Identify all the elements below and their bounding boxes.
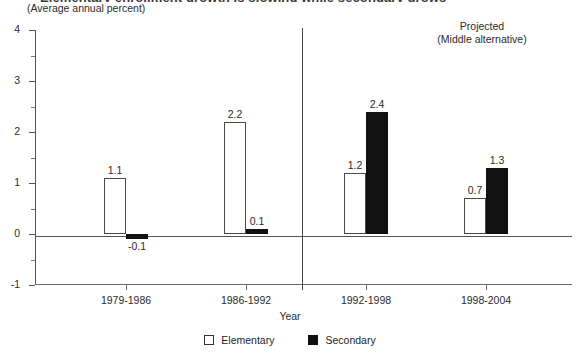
y-tick-minor: [31, 260, 35, 261]
y-tick-label: 2: [14, 125, 20, 137]
x-tick-label: 1986-1992: [221, 294, 271, 306]
x-tick: [126, 284, 127, 290]
y-tick-label: -1: [11, 278, 20, 290]
y-tick-label: 0: [14, 227, 20, 239]
y-tick-minor: [31, 107, 35, 108]
bar-value-label: 1.1: [108, 164, 123, 176]
bar-elementary-1986-1992: [224, 122, 246, 234]
y-tick-major: 0: [29, 234, 35, 235]
legend-swatch-secondary: [308, 335, 318, 345]
projection-divider-line: [302, 28, 303, 290]
y-tick-label: 1: [14, 176, 20, 188]
bar-secondary-1986-1992: [246, 229, 268, 234]
y-tick-major: 1: [29, 183, 35, 184]
legend-label-secondary: Secondary: [325, 334, 375, 346]
x-tick-label: 1998-2004: [461, 294, 511, 306]
y-tick-minor: [31, 209, 35, 210]
bar-secondary-1998-2004: [486, 168, 508, 234]
legend-item-secondary: Secondary: [308, 334, 375, 346]
x-tick: [366, 284, 367, 290]
bar-value-label: 0.1: [250, 215, 265, 227]
bar-value-label: 2.4: [370, 98, 385, 110]
legend-label-elementary: Elementary: [221, 334, 274, 346]
y-tick-major: -1: [29, 285, 35, 286]
legend-item-elementary: Elementary: [204, 334, 274, 346]
zero-baseline: [35, 236, 572, 237]
y-tick-label: 4: [14, 23, 20, 35]
y-tick-major: 3: [29, 81, 35, 82]
x-tick: [246, 284, 247, 290]
y-tick-minor: [31, 158, 35, 159]
y-tick-major: 4: [29, 30, 35, 31]
chart-subtitle: (Average annual percent): [27, 2, 145, 14]
x-tick-label: 1979-1986: [101, 294, 151, 306]
bar-value-label: -0.1: [128, 240, 146, 252]
bar-value-label: 1.3: [490, 154, 505, 166]
y-tick-minor: [31, 56, 35, 57]
x-axis-line: [35, 284, 572, 285]
x-axis-title: Year: [0, 310, 580, 322]
bar-value-label: 0.7: [468, 184, 483, 196]
bar-elementary-1998-2004: [464, 198, 486, 234]
y-axis-line: [35, 30, 36, 285]
y-tick-label: 3: [14, 74, 20, 86]
x-tick-label: 1992-1998: [341, 294, 391, 306]
legend-swatch-elementary: [204, 335, 214, 345]
x-tick: [486, 284, 487, 290]
bar-elementary-1979-1986: [104, 178, 126, 234]
bar-value-label: 1.2: [348, 159, 363, 171]
bar-secondary-1979-1986: [126, 234, 148, 239]
bar-secondary-1992-1998: [366, 112, 388, 234]
bar-chart: Elementary enrollment growth is slowing …: [0, 0, 580, 356]
bar-value-label: 2.2: [228, 108, 243, 120]
chart-legend: Elementary Secondary: [0, 334, 580, 346]
plot-area: 43210-11979-19861.1-0.11986-19922.20.119…: [35, 30, 572, 285]
bar-elementary-1992-1998: [344, 173, 366, 234]
y-tick-major: 2: [29, 132, 35, 133]
